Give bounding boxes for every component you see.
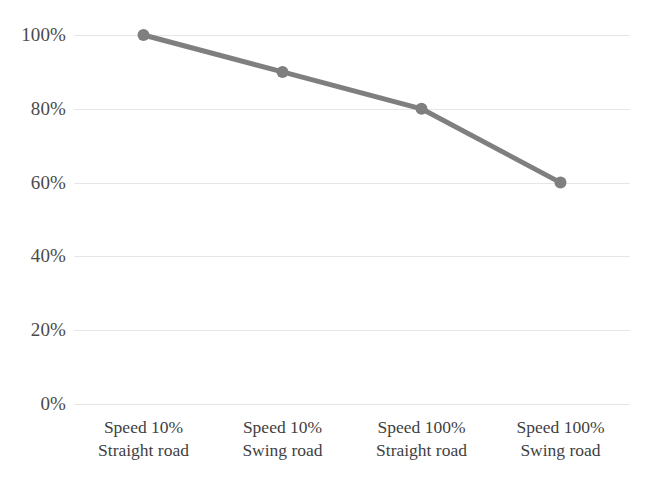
x-tick-label: Speed 100% Straight road (352, 416, 491, 480)
y-axis: 100% 80% 60% 40% 20% 0% (0, 35, 66, 404)
x-axis: Speed 10% Straight road Speed 10% Swing … (74, 416, 630, 480)
series-line-group (74, 35, 630, 404)
y-tick-label: 20% (4, 320, 66, 339)
y-tick-label: 80% (4, 99, 66, 118)
x-tick-label-line1: Speed 10% (104, 417, 183, 437)
x-tick-label-line1: Speed 10% (243, 417, 322, 437)
data-point (416, 103, 428, 115)
x-tick-label-line2: Straight road (74, 439, 213, 462)
gridline (74, 404, 630, 405)
x-tick-label: Speed 10% Straight road (74, 416, 213, 480)
x-tick-label-line2: Straight road (352, 439, 491, 462)
x-tick-label: Speed 100% Swing road (491, 416, 630, 480)
plot-area (74, 35, 630, 404)
x-tick-label-line1: Speed 100% (517, 417, 605, 437)
y-tick-label: 60% (4, 173, 66, 192)
y-tick-label: 40% (4, 246, 66, 265)
x-tick-label-line2: Swing road (491, 439, 630, 462)
data-point (555, 177, 567, 189)
y-tick-label: 0% (4, 394, 66, 413)
data-point (277, 66, 289, 78)
series-line (144, 35, 561, 183)
line-chart: 100% 80% 60% 40% 20% 0% Speed 10% Straig… (0, 0, 647, 491)
x-tick-label-line2: Swing road (213, 439, 352, 462)
data-point (138, 29, 150, 41)
y-tick-label: 100% (4, 25, 66, 44)
x-tick-label-line1: Speed 100% (378, 417, 466, 437)
x-tick-label: Speed 10% Swing road (213, 416, 352, 480)
